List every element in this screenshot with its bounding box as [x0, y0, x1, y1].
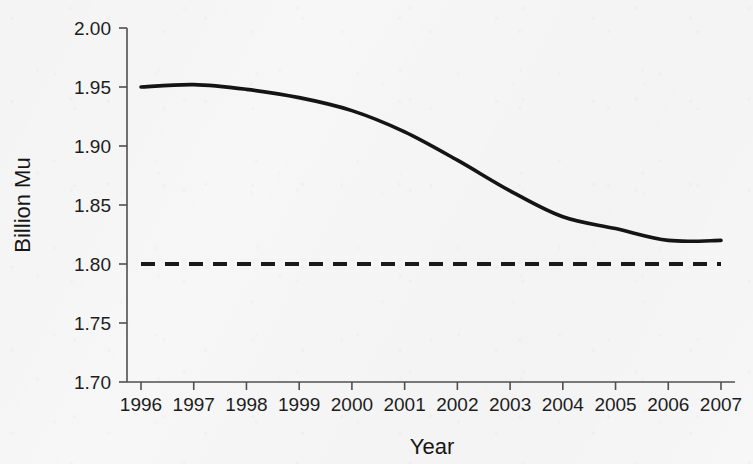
data-series-line — [141, 85, 721, 242]
y-axis-title: Billion Mu — [10, 157, 35, 252]
y-tick-label: 1.70 — [74, 372, 111, 393]
chart-page: 1.701.751.801.851.901.952.00 19961997199… — [0, 0, 753, 464]
y-tick-label: 1.75 — [74, 313, 111, 334]
x-tick-label: 2004 — [542, 394, 585, 415]
x-tick-label: 2006 — [647, 394, 689, 415]
x-tick-label: 2001 — [383, 394, 425, 415]
y-tick-label: 2.00 — [74, 18, 111, 39]
x-tick-label: 2005 — [594, 394, 636, 415]
x-tick-label: 2002 — [436, 394, 478, 415]
y-tick-label: 1.85 — [74, 195, 111, 216]
y-tick-label: 1.95 — [74, 77, 111, 98]
y-axis-tick-labels: 1.701.751.801.851.901.952.00 — [74, 18, 111, 393]
x-tick-label: 2003 — [489, 394, 531, 415]
x-axis-title: Year — [410, 434, 454, 459]
y-axis-tick-marks — [119, 28, 127, 382]
x-tick-label: 1998 — [225, 394, 267, 415]
x-tick-label: 1999 — [278, 394, 320, 415]
x-tick-label: 1997 — [173, 394, 215, 415]
line-chart: 1.701.751.801.851.901.952.00 19961997199… — [0, 0, 753, 464]
y-tick-label: 1.90 — [74, 136, 111, 157]
x-tick-label: 1996 — [120, 394, 162, 415]
x-axis-tick-marks — [141, 382, 721, 390]
x-tick-label: 2000 — [331, 394, 373, 415]
x-tick-label: 2007 — [700, 394, 742, 415]
y-tick-label: 1.80 — [74, 254, 111, 275]
x-axis-tick-labels: 1996199719981999200020012002200320042005… — [120, 394, 742, 415]
